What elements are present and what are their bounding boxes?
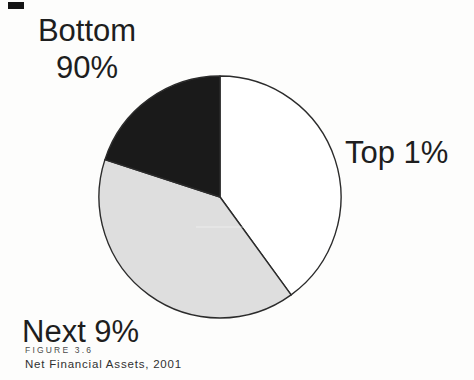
figure-page: Bottom 90% Top 1% Next 9% FIGURE 3.6 Net… (0, 0, 474, 380)
figure-number: FIGURE 3.6 (25, 345, 182, 355)
pie-chart-svg (96, 73, 344, 321)
pie-chart (96, 73, 344, 321)
figure-caption-block: FIGURE 3.6 Net Financial Assets, 2001 (25, 345, 182, 370)
scan-artifact-mark (8, 2, 24, 9)
slice-label-top-1pct: Top 1% (345, 134, 448, 171)
figure-caption: Net Financial Assets, 2001 (25, 358, 182, 370)
